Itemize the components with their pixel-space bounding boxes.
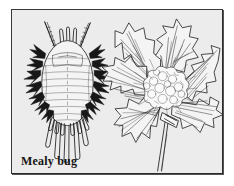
figure-caption: Mealy bug bbox=[21, 155, 77, 167]
plant-stem bbox=[158, 119, 169, 171]
mealy-bug-specimen-drawing bbox=[24, 22, 111, 163]
figure-frame-border: .ink { fill:none; stroke:#1d1d1d; stroke… bbox=[11, 9, 223, 174]
illustration-plate: .ink { fill:none; stroke:#1d1d1d; stroke… bbox=[12, 10, 222, 173]
illustration-figure: .ink { fill:none; stroke:#1d1d1d; stroke… bbox=[0, 0, 234, 186]
infested-plant-drawing bbox=[102, 19, 222, 171]
